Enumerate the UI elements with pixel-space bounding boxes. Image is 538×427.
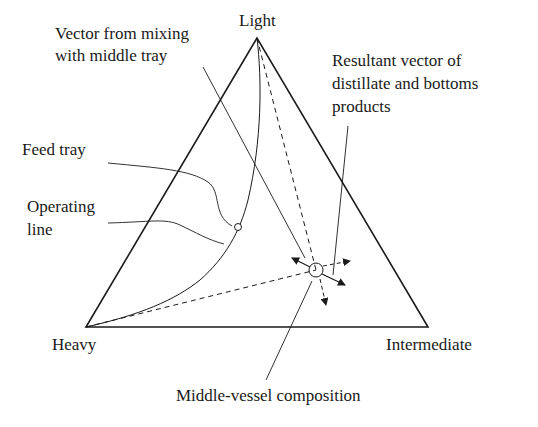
vertex-label-intermediate: Intermediate	[386, 334, 472, 355]
mixing-vector-arrow-1	[292, 258, 310, 267]
annotation-middle-vessel: Middle-vessel composition	[176, 385, 361, 406]
leader-resultant	[333, 126, 348, 275]
leader-feed-tray	[108, 163, 232, 226]
annotation-resultant-3: products	[332, 96, 391, 117]
annotation-vector-mixing-1: Vector from mixing	[55, 23, 189, 44]
leader-vector-mixing	[203, 67, 305, 258]
vertex-label-light: Light	[239, 10, 276, 31]
mixing-vector-arrow-2	[322, 274, 345, 285]
feed-tray-point	[235, 224, 242, 231]
annotation-resultant-1: Resultant vector of	[332, 50, 461, 71]
annotation-vector-mixing-2: with middle tray	[55, 45, 167, 66]
annotation-operating-2: line	[27, 219, 53, 240]
leader-middle-vessel	[266, 281, 312, 380]
resultant-arrow-right	[323, 261, 350, 266]
leader-operating-line	[108, 221, 224, 244]
annotation-resultant-2: distillate and bottoms	[332, 73, 478, 94]
resultant-arrow-down	[320, 279, 326, 305]
dashed-light-to-vessel	[257, 38, 316, 270]
annotation-feed-tray: Feed tray	[22, 139, 86, 160]
vertex-label-heavy: Heavy	[52, 334, 96, 355]
annotation-operating-1: Operating	[27, 196, 95, 217]
